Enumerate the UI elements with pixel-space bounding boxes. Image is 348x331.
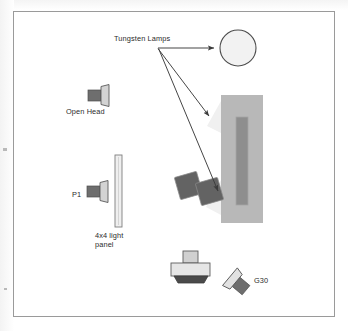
label-p1: P1 [72, 190, 81, 199]
scan-speck [3, 148, 7, 151]
label-tungsten-lamps: Tungsten Lamps [114, 34, 170, 43]
scan-speck [4, 288, 7, 290]
label-light-panel-line1: 4x4 light [95, 231, 123, 240]
page-edge-shadow-left [0, 0, 14, 331]
label-open-head: Open Head [66, 107, 105, 116]
label-g30: G30 [254, 276, 268, 285]
page-edge-shadow-top [0, 0, 348, 10]
label-light-panel-line2: panel [95, 240, 114, 249]
label-light-panel: 4x4 lightpanel [95, 231, 123, 249]
scanned-page: Tungsten Lamps Open Head P1 4x4 lightpan… [0, 0, 348, 331]
diagram-frame [13, 11, 335, 317]
